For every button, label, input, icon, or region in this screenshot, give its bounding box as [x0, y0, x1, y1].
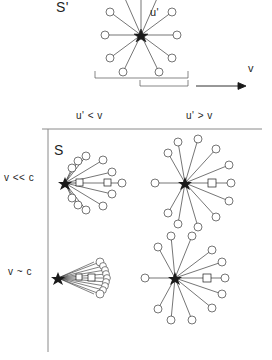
- top-panel-emission-label: u': [150, 6, 159, 18]
- square-marker: [88, 274, 95, 281]
- square-marker: [203, 274, 211, 282]
- column-header-u-greater-than-v: u' > v: [186, 110, 213, 121]
- grid-frame-label: S: [54, 142, 64, 158]
- source-star: [58, 177, 72, 190]
- row-header-v-approx-c: v ~ c: [8, 266, 32, 277]
- square-marker: [104, 179, 111, 186]
- source-star: [51, 272, 65, 285]
- top-panel-velocity-label: v: [248, 62, 254, 74]
- row-header-v-much-less-than-c: v << c: [4, 172, 34, 183]
- panel-v-near-c-u-less: [51, 258, 110, 298]
- top-panel-velocity-arrow: [196, 83, 246, 90]
- panel-v-small-u-less: [58, 152, 126, 214]
- panel-v-near-c-u-greater: [141, 232, 229, 324]
- square-marker: [208, 179, 216, 187]
- physics-diagram-canvas: [0, 0, 272, 360]
- top-panel-bracket-inner: [140, 80, 188, 86]
- top-panel-frame-label: S': [56, 0, 69, 15]
- panel-v-small-u-greater: [151, 135, 235, 231]
- column-header-u-less-than-v: u' < v: [76, 110, 103, 121]
- top-panel-bracket-outer: [95, 71, 188, 78]
- top-panel-source-star: [134, 29, 148, 42]
